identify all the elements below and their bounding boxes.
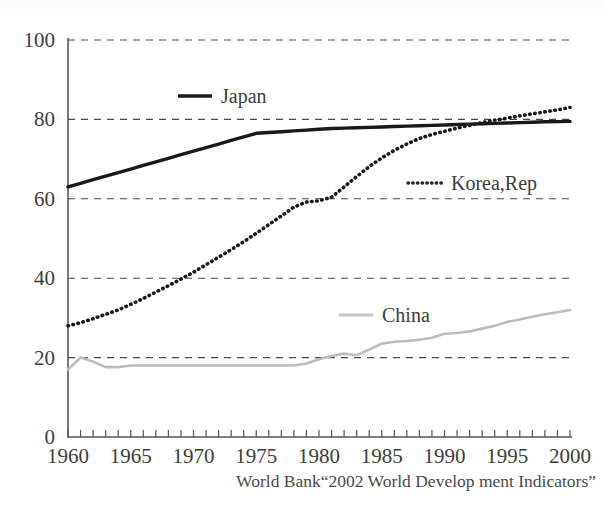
x-tick-label-1985: 1985 [361,444,403,468]
x-tick-label-1980: 1980 [298,444,340,468]
y-tick-label-100: 100 [24,28,56,52]
y-tick-label-20: 20 [34,346,55,370]
x-axis-minor-ticks [68,430,570,437]
x-tick-label-1995: 1995 [486,444,528,468]
x-axis [68,430,572,437]
legend-label-japan: Japan [221,85,267,108]
chart-container: 100806040200 196019651970197519801985199… [0,0,604,511]
series-group [68,107,570,369]
x-tick-label-1965: 1965 [110,444,152,468]
x-tick-label-1990: 1990 [424,444,466,468]
y-axis-tick-labels: 100806040200 [24,28,56,449]
legend-item-japan: Japan [178,85,267,108]
y-tick-label-40: 40 [34,266,55,290]
legend-label-china: China [382,304,430,326]
x-tick-label-1975: 1975 [235,444,277,468]
line-chart: 100806040200 196019651970197519801985199… [0,0,604,511]
x-tick-label-1970: 1970 [173,444,215,468]
source-note: World Bank“2002 World Develop ment Indic… [236,471,596,491]
y-tick-label-80: 80 [34,107,55,131]
x-tick-label-2000: 2000 [549,444,591,468]
legend-label-korea-rep: Korea,Rep [451,172,537,195]
x-axis-tick-labels: 196019651970197519801985199019952000 [47,444,591,468]
x-tick-label-1960: 1960 [47,444,89,468]
legend-item-korea-rep: Korea,Rep [408,172,537,195]
legend-item-china: China [339,304,430,326]
gridlines [68,40,572,358]
y-tick-label-60: 60 [34,187,55,211]
series-line-china [68,310,570,370]
series-line-korea-rep [68,107,570,325]
scan-artifact-band [0,0,604,9]
